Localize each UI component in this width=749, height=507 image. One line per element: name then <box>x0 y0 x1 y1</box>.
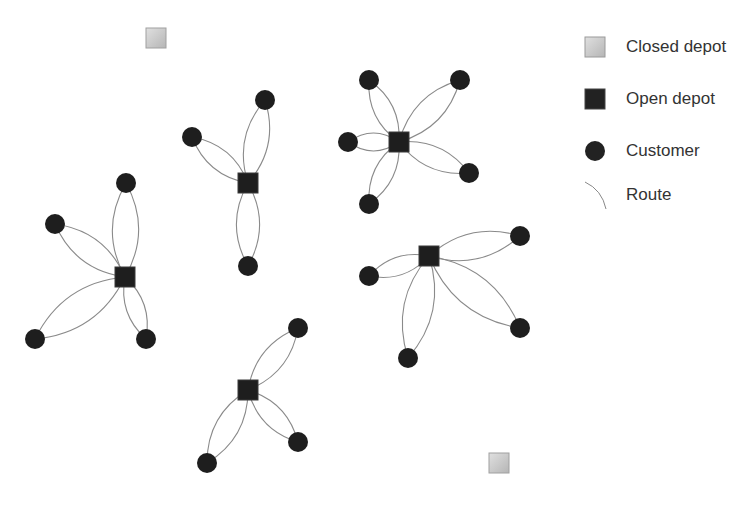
open-depot <box>238 380 258 400</box>
customer-node <box>116 173 136 193</box>
route-arc <box>243 100 265 183</box>
customer-node <box>25 329 45 349</box>
customer-node <box>510 318 530 338</box>
customer-node <box>359 266 379 286</box>
open-depot <box>238 173 258 193</box>
route-arc <box>429 236 520 261</box>
legend-label-closed-depot: Closed depot <box>626 37 726 57</box>
route-arc <box>35 277 125 339</box>
legend-label-customer: Customer <box>626 141 700 161</box>
open-depot <box>115 267 135 287</box>
customer-node <box>136 329 156 349</box>
legend-label-route: Route <box>626 185 671 205</box>
closed-depot <box>489 453 509 473</box>
route-arc <box>207 390 248 463</box>
open-depot <box>419 246 439 266</box>
customer-node <box>197 453 217 473</box>
customer-node <box>288 318 308 338</box>
closed-depot-icon <box>584 36 606 58</box>
route-arc <box>112 183 126 277</box>
route-arc <box>125 183 139 277</box>
open-depot-icon <box>584 88 606 110</box>
customer-node <box>338 132 358 152</box>
open-depots-layer <box>115 132 439 400</box>
customer-node <box>450 70 470 90</box>
legend-label-open-depot: Open depot <box>626 89 715 109</box>
customer-node <box>288 432 308 452</box>
route-arc <box>248 183 260 266</box>
route-arc <box>429 256 520 328</box>
customer-node <box>182 127 202 147</box>
customer-node <box>238 256 258 276</box>
route-arc <box>248 100 270 183</box>
routes-layer <box>35 80 520 463</box>
customer-node <box>510 226 530 246</box>
route-icon <box>584 180 610 210</box>
route-arc <box>207 390 248 463</box>
customer-node <box>255 90 275 110</box>
customer-node <box>359 194 379 214</box>
customers-layer <box>25 70 530 473</box>
route-arc <box>429 256 520 328</box>
route-arc <box>402 256 429 358</box>
routing-diagram <box>0 0 749 507</box>
customer-node <box>359 70 379 90</box>
open-depot <box>389 132 409 152</box>
customer-node <box>459 163 479 183</box>
route-arc <box>408 256 435 358</box>
closed-depot <box>146 28 166 48</box>
customer-node <box>398 348 418 368</box>
route-arc <box>236 183 248 266</box>
customer-node <box>45 214 65 234</box>
customer-icon <box>584 140 606 162</box>
route-arc <box>35 277 125 339</box>
route-arc <box>429 231 520 256</box>
